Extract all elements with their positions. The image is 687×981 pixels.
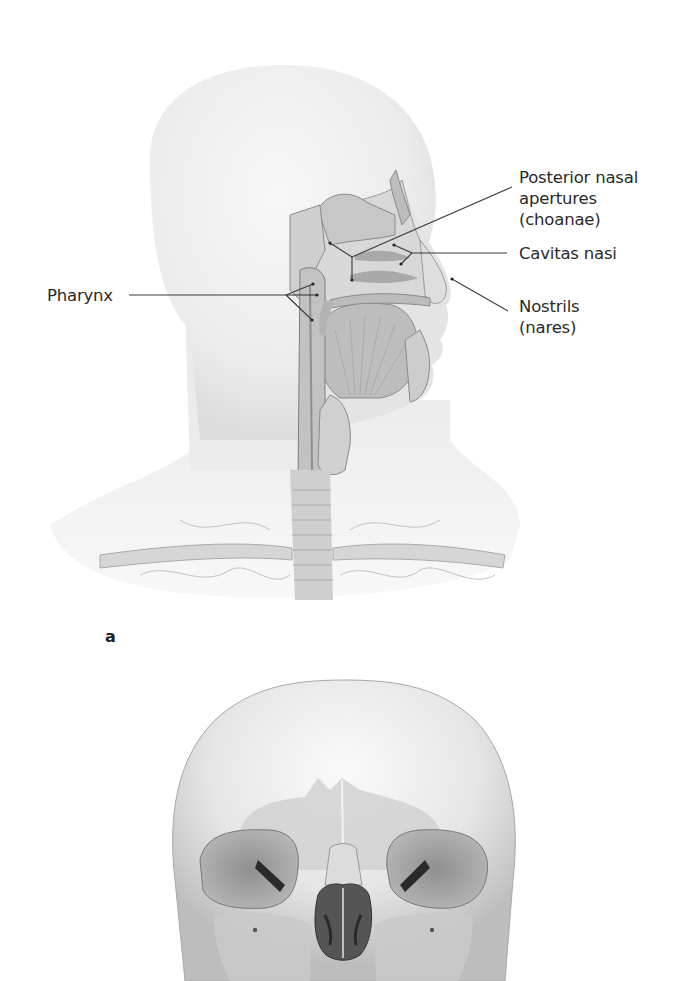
- label-nostrils: Nostrils (nares): [519, 296, 579, 338]
- label-posterior-nasal-line1: Posterior nasal: [519, 167, 638, 188]
- label-posterior-nasal-line2: apertures: [519, 188, 638, 209]
- skull-anterior-view: [173, 680, 516, 981]
- label-cavitas-nasi: Cavitas nasi: [519, 243, 617, 264]
- label-posterior-nasal-apertures: Posterior nasal apertures (choanae): [519, 167, 638, 230]
- label-pharynx: Pharynx: [47, 285, 113, 306]
- head-silhouette: [50, 65, 520, 598]
- label-nostrils-line2: (nares): [519, 317, 579, 338]
- label-posterior-nasal-line3: (choanae): [519, 209, 638, 230]
- label-nostrils-line1: Nostrils: [519, 296, 579, 317]
- anatomy-figure: Pharynx Posterior nasal apertures (choan…: [0, 0, 687, 981]
- illustration-canvas: [0, 0, 687, 981]
- panel-letter-a: a: [105, 627, 116, 646]
